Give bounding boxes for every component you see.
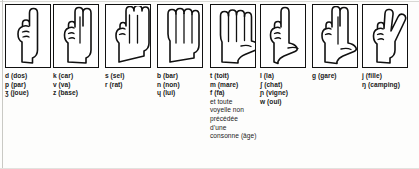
phoneme-entry: t (toit) [210, 72, 257, 81]
phoneme-column-6: l (la)ʃ (chat)ɲ (vigne)w (oui) [260, 72, 288, 106]
handshape-drawing [55, 6, 98, 67]
phoneme-column-3: s (sel)r (rat) [105, 72, 124, 89]
phoneme-column-7: g (gare) [312, 72, 337, 81]
phoneme-entry: d (dos) [5, 72, 29, 81]
phoneme-symbol: w [260, 98, 265, 105]
handshape-index-and-middle-extended-icon [53, 4, 99, 68]
phoneme-example-word: (oui) [267, 98, 282, 105]
phoneme-column-8: j (fille)ŋ (camping) [362, 72, 400, 89]
phoneme-symbol: ʃ [260, 81, 262, 88]
phoneme-symbol: p [5, 81, 9, 88]
phoneme-entry: ɥ (lui) [157, 89, 180, 98]
phoneme-example-word: (bar) [163, 72, 178, 79]
phoneme-entry: l (la) [260, 72, 288, 81]
phoneme-note-line: voyelle non [210, 106, 257, 115]
phoneme-example-word: (non) [163, 81, 180, 88]
phoneme-example-word: (par) [11, 81, 26, 88]
phoneme-entry: g (gare) [312, 72, 337, 81]
phoneme-entry: ʃ (chat) [260, 81, 288, 90]
handshape-index-extended-thumb-out-icon [260, 4, 306, 68]
handshape-open-hand-thumb-out-icon [210, 4, 256, 68]
phoneme-symbol: s [105, 72, 109, 79]
phoneme-note-line: et toute [210, 98, 257, 107]
handshape-two-fingers-thumb-out-icon [312, 4, 358, 68]
phoneme-symbol: ɥ [157, 89, 161, 96]
phoneme-symbol: b [157, 72, 161, 79]
phoneme-column-4: b (bar)n (non)ɥ (lui) [157, 72, 180, 98]
phoneme-symbol: k [53, 72, 57, 79]
phoneme-entry: f (fa) [210, 89, 257, 98]
phoneme-label-row: d (dos)p (par)ʒ (joue)k (car)v (va)z (ba… [0, 72, 419, 164]
phoneme-symbol: d [5, 72, 9, 79]
phoneme-entry: w (oui) [260, 98, 288, 107]
phoneme-entry: ʒ (joue) [5, 89, 29, 98]
phoneme-example-word: (dos) [11, 72, 27, 79]
phoneme-example-word: (toit) [214, 72, 229, 79]
handshape-cell-6 [260, 4, 306, 68]
phoneme-example-word: (car) [59, 72, 74, 79]
phoneme-note-line: précédée [210, 115, 257, 124]
handshape-drawing [212, 6, 255, 67]
phoneme-column-1: d (dos)p (par)ʒ (joue) [5, 72, 29, 98]
handshape-cell-1 [5, 4, 51, 68]
phoneme-entry: z (base) [53, 89, 78, 98]
page-edge-top [0, 1, 419, 2]
phoneme-entry: ŋ (camping) [362, 81, 400, 90]
handshape-drawing [314, 6, 357, 67]
phoneme-entry: n (non) [157, 81, 180, 90]
phoneme-symbol: f [210, 89, 212, 96]
chart-sheet: d (dos)p (par)ʒ (joue)k (car)v (va)z (ba… [0, 0, 419, 169]
phoneme-example-word: (va) [59, 81, 71, 88]
handshape-cell-7 [312, 4, 358, 68]
phoneme-example-word: (lui) [163, 89, 175, 96]
phoneme-note-line: consonne (âge) [210, 132, 257, 141]
phoneme-example-word: (fille) [366, 72, 382, 79]
phoneme-symbol: j [362, 72, 364, 79]
handshape-drawing [159, 6, 202, 67]
phoneme-entry: p (par) [5, 81, 29, 90]
handshape-index-finger-extended-icon [5, 4, 51, 68]
handshape-cell-3 [105, 4, 151, 68]
phoneme-symbol: l [260, 72, 262, 79]
phoneme-column-2: k (car)v (va)z (base) [53, 72, 78, 98]
phoneme-entry: m (mare) [210, 81, 257, 90]
handshape-row [0, 4, 419, 70]
phoneme-symbol: ŋ [362, 81, 366, 88]
phoneme-example-word: (chat) [264, 81, 282, 88]
phoneme-entry: r (rat) [105, 81, 124, 90]
handshape-cell-5 [210, 4, 256, 68]
phoneme-symbol: m [210, 81, 216, 88]
phoneme-example-word: (camping) [368, 81, 400, 88]
phoneme-symbol: z [53, 89, 56, 96]
phoneme-entry: v (va) [53, 81, 78, 90]
phoneme-note-line: d’une [210, 124, 257, 133]
handshape-cell-8 [362, 4, 408, 68]
phoneme-example-word: (la) [264, 72, 274, 79]
phoneme-example-word: (fa) [214, 89, 224, 96]
phoneme-column-5: t (toit)m (mare)f (fa)et toutevoyelle no… [210, 72, 257, 141]
phoneme-entry: j (fille) [362, 72, 400, 81]
handshape-victory-v-sign-icon [362, 4, 408, 68]
phoneme-symbol: r [105, 81, 108, 88]
handshape-cell-4 [157, 4, 203, 68]
phoneme-entry: ɲ (vigne) [260, 89, 288, 98]
handshape-cell-2 [53, 4, 99, 68]
handshape-drawing [107, 6, 150, 67]
handshape-four-fingers-flat-icon [157, 4, 203, 68]
phoneme-example-word: (gare) [318, 72, 337, 79]
handshape-drawing [262, 6, 305, 67]
phoneme-entry: s (sel) [105, 72, 124, 81]
phoneme-symbol: t [210, 72, 212, 79]
phoneme-example-word: (base) [58, 89, 78, 96]
phoneme-example-word: (mare) [218, 81, 238, 88]
phoneme-example-word: (vigne) [266, 89, 288, 96]
handshape-three-fingers-extended-icon [105, 4, 151, 68]
phoneme-example-word: (sel) [111, 72, 125, 79]
handshape-drawing [7, 6, 50, 67]
phoneme-symbol: n [157, 81, 161, 88]
phoneme-symbol: ɲ [260, 89, 264, 96]
phoneme-entry: k (car) [53, 72, 78, 81]
phoneme-entry: b (bar) [157, 72, 180, 81]
phoneme-symbol: g [312, 72, 316, 79]
page-edge-bottom [0, 168, 419, 169]
